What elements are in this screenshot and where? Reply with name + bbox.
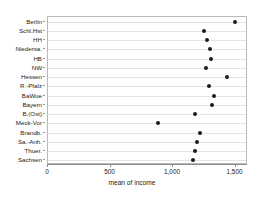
x-axis-line [47, 164, 247, 165]
chart-container: BerlinSchl.HstHHNiedersa.HBNWHessenR.-Pf… [0, 0, 264, 203]
data-point [198, 131, 202, 135]
y-axis-tick-label: B.(Ost) [22, 110, 42, 117]
y-axis-tick [43, 21, 45, 22]
data-row [48, 54, 246, 63]
y-axis-tick [43, 113, 45, 114]
y-axis-tick [43, 122, 45, 123]
plot-area [47, 16, 247, 164]
y-axis-tick-label: Brandb. [20, 128, 42, 135]
y-axis-tick-label: HB [33, 54, 42, 61]
data-point [225, 75, 229, 79]
data-row [48, 26, 246, 35]
data-point [193, 112, 197, 116]
data-row [48, 119, 246, 128]
y-axis-tick [43, 104, 45, 105]
y-axis-tick-label: Sachsen [18, 156, 42, 163]
x-axis-tick [110, 164, 111, 167]
data-row [48, 73, 246, 82]
x-axis-title: mean of income [0, 179, 264, 186]
data-row [48, 128, 246, 137]
y-axis-tick [43, 141, 45, 142]
data-row [48, 17, 246, 26]
data-row [48, 137, 246, 146]
y-axis-tick-label: Hessen [21, 73, 42, 80]
x-axis-tick-label: 1,500 [227, 168, 243, 176]
x-axis-tick-label: 0 [45, 168, 49, 176]
x-axis-tick-label: 1,000 [164, 168, 180, 176]
data-row [48, 63, 246, 72]
data-point [191, 158, 195, 162]
data-row [48, 110, 246, 119]
y-axis-tick [43, 39, 45, 40]
y-axis-tick-label: Bayern [22, 100, 42, 107]
data-point [210, 103, 214, 107]
y-axis-tick [43, 76, 45, 77]
data-row [48, 100, 246, 109]
y-axis-tick-label: Schl.Hst [19, 26, 42, 33]
data-point [205, 38, 209, 42]
data-point [204, 66, 208, 70]
y-axis-tick [43, 48, 45, 49]
y-axis-tick-label: NW [32, 63, 42, 70]
y-axis-tick-label: Sa.-Anh. [18, 137, 42, 144]
y-axis-tick [43, 150, 45, 151]
y-axis-tick-label: Thuer. [24, 147, 42, 154]
y-axis-tick [43, 30, 45, 31]
data-row [48, 82, 246, 91]
y-axis-tick [43, 159, 45, 160]
y-axis-tick [43, 67, 45, 68]
x-axis-tick [172, 164, 173, 167]
x-axis-tick [47, 164, 48, 167]
data-row [48, 36, 246, 45]
data-point [209, 57, 213, 61]
y-axis-tick-label: Meck-Vor [16, 119, 42, 126]
y-axis-tick [43, 58, 45, 59]
x-axis-tick [235, 164, 236, 167]
y-axis-tick-label: BaWue [22, 91, 42, 98]
data-point [207, 84, 211, 88]
data-row [48, 147, 246, 156]
y-axis-tick [43, 85, 45, 86]
y-axis-tick-label: R.-Pfalz [20, 82, 42, 89]
y-axis-tick-label: Berlin [26, 17, 42, 24]
data-point [233, 20, 237, 24]
data-point [156, 121, 160, 125]
y-axis-tick [43, 95, 45, 96]
y-axis-tick-label: Niedersa. [16, 45, 42, 52]
data-point [193, 149, 197, 153]
data-row [48, 91, 246, 100]
data-row [48, 45, 246, 54]
data-point [202, 29, 206, 33]
data-point [195, 140, 199, 144]
data-point [212, 94, 216, 98]
y-axis-tick-label: HH [33, 36, 42, 43]
y-axis-tick [43, 132, 45, 133]
x-axis-tick-label: 500 [104, 168, 115, 176]
y-axis-labels: BerlinSchl.HstHHNiedersa.HBNWHessenR.-Pf… [0, 16, 45, 164]
data-point [208, 47, 212, 51]
